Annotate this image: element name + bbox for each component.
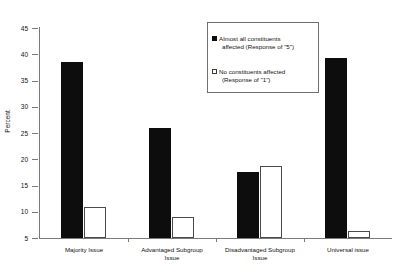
bar-series2 (260, 166, 282, 238)
x-tick-label: Universal issue (304, 246, 392, 254)
x-tick-label-line: Issue (216, 254, 304, 262)
legend-swatch-hollow-icon (212, 69, 217, 74)
bar-series1 (325, 58, 347, 238)
y-tick-mark (32, 159, 38, 160)
y-tick-label: 15 (6, 182, 28, 189)
y-tick-mark (32, 28, 38, 29)
y-tick-label: 5 (6, 235, 28, 242)
legend-label-line1: No constituents affected (219, 68, 285, 75)
x-tick-label: Majority Issue (40, 246, 128, 254)
x-tick-label: Disadvantaged SubgroupIssue (216, 246, 304, 261)
x-tick-mark (128, 238, 129, 242)
x-tick-label-line: Disadvantaged Subgroup (216, 246, 304, 254)
y-tick-mark (32, 212, 38, 213)
bar-chart: Percent 51015202530354045 Majority Issue… (0, 0, 401, 280)
x-tick-mark (216, 238, 217, 242)
x-tick-label-line: Advantaged Subgroup (128, 246, 216, 254)
legend-label-line1: Almost all constituents (219, 35, 281, 42)
legend-label-line2: affected (Response of "5") (219, 43, 318, 51)
legend: Almost all constituents affected (Respon… (207, 22, 319, 93)
bar-series1 (237, 172, 259, 238)
y-tick-label: 20 (6, 156, 28, 163)
y-tick-label: 40 (6, 51, 28, 58)
y-tick-label: 30 (6, 103, 28, 110)
x-tick-label-line: Universal issue (304, 246, 392, 254)
bar-series2 (84, 207, 106, 239)
bar-series1 (61, 62, 83, 238)
y-tick-mark (32, 81, 38, 82)
bar-series2 (172, 217, 194, 238)
legend-entry-no-constituents: No constituents affected (Response of "1… (212, 68, 318, 84)
y-axis-title: Percent (4, 110, 11, 132)
y-tick-mark (32, 54, 38, 55)
legend-entry-almost-all: Almost all constituents affected (Respon… (212, 35, 318, 51)
y-tick-label: 10 (6, 208, 28, 215)
x-tick-label: Advantaged SubgroupIssue (128, 246, 216, 261)
bar-series1 (149, 128, 171, 238)
x-tick-label-line: Majority Issue (40, 246, 128, 254)
y-tick-mark (32, 238, 38, 239)
y-tick-mark (32, 186, 38, 187)
x-tick-mark (304, 238, 305, 242)
y-tick-label: 45 (6, 25, 28, 32)
bar-series2 (348, 231, 370, 238)
y-tick-mark (32, 133, 38, 134)
x-tick-label-line: Issue (128, 254, 216, 262)
legend-label-line2: (Response of "1") (219, 76, 318, 84)
legend-swatch-solid-icon (212, 36, 217, 41)
y-tick-mark (32, 107, 38, 108)
y-tick-label: 35 (6, 77, 28, 84)
